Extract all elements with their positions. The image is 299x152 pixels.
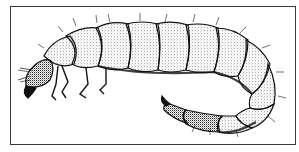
legs (52, 66, 106, 100)
larva-body (24, 22, 275, 133)
larva-illustration (0, 0, 299, 152)
